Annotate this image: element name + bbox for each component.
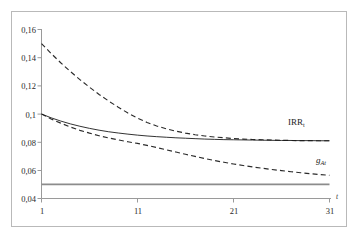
y-tick-label-3: 0,1 [14, 110, 36, 120]
y-tick-label-1: 0,14 [14, 53, 36, 63]
chart-figure: 0,16 0,14 0,12 0,1 0,08 0,06 0,04 1 11 2… [0, 0, 358, 240]
data-series [42, 44, 330, 185]
x-tick-label-2: 21 [223, 206, 245, 216]
series-label-g-subscript: At [321, 159, 327, 166]
series-label-irr: IRRt [288, 117, 305, 127]
x-tick-label-1: 11 [127, 206, 149, 216]
x-axis-ticks [42, 199, 330, 203]
y-tick-label-2: 0,12 [14, 81, 36, 91]
series-g-dashed-decay [42, 114, 330, 175]
series-label-irr-text: IRR [288, 117, 303, 127]
series-upper-dashed-decay [42, 44, 330, 141]
y-tick-label-4: 0,08 [14, 138, 36, 148]
axis-lines [42, 29, 332, 199]
y-tick-label-5: 0,06 [14, 166, 36, 176]
y-axis-ticks [38, 30, 42, 199]
x-tick-label-0: 1 [31, 206, 53, 216]
y-tick-label-6: 0,04 [14, 194, 36, 204]
series-label-g: gAt [316, 155, 326, 165]
y-tick-label-0: 0,16 [14, 25, 36, 35]
series-label-irr-subscript: t [303, 121, 305, 128]
series-irr-solid [42, 114, 330, 141]
x-tick-label-3: 31 [319, 206, 341, 216]
series-label-g-text: g [316, 155, 321, 165]
x-axis-name: t [336, 192, 338, 201]
